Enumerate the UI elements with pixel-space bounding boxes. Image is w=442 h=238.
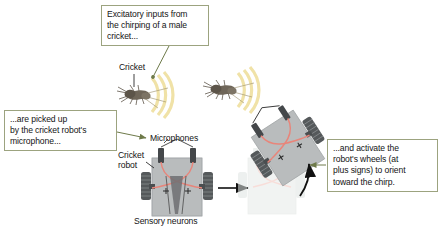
leader-picked-up — [117, 132, 146, 138]
callout-activate-line1: ...and activate the — [333, 143, 433, 154]
sound-waves-right — [238, 67, 259, 113]
callout-picked-up-line3: microphone... — [10, 136, 112, 147]
callout-picked-up-line2: by the cricket robot's — [10, 125, 112, 136]
callout-activate-line2: robot's wheels (at — [333, 154, 433, 165]
callout-activate-wheels: ...and activate the robot's wheels (at p… — [327, 139, 438, 192]
sound-waves-left — [152, 72, 173, 118]
callout-activate-line4: toward the chirp. — [333, 177, 433, 188]
callout-excitatory-line3: cricket... — [107, 31, 204, 42]
callout-picked-up-line1: ...are picked up — [10, 114, 112, 125]
label-sensory-neurons: Sensory neurons — [134, 216, 197, 226]
cricket-right — [203, 80, 237, 100]
callout-picked-up: ...are picked up by the cricket robot's … — [4, 110, 117, 151]
callout-excitatory-inputs: Excitatory inputs from the chirping of a… — [101, 5, 209, 46]
label-microphones: Microphones — [150, 133, 198, 143]
label-cricket-robot-line2: robot — [118, 160, 137, 170]
callout-excitatory-line2: the chirping of a male — [107, 20, 204, 31]
figure-canvas: Excitatory inputs from the chirping of a… — [0, 0, 442, 238]
robot-upright — [141, 139, 213, 216]
callout-activate-line3: plus signs) to orient — [333, 165, 433, 176]
label-cricket-robot-line1: Cricket — [118, 150, 144, 160]
leader-excitatory — [153, 44, 170, 77]
label-cricket: Cricket — [119, 62, 145, 72]
callout-excitatory-line1: Excitatory inputs from — [107, 9, 204, 20]
cricket-left — [117, 85, 151, 105]
